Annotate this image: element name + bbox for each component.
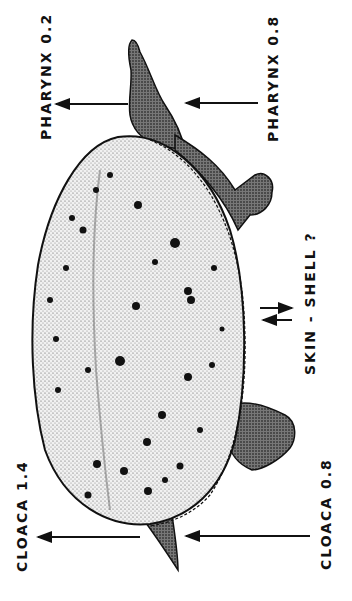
- label-cloaca-right: CLOACA 0.8: [318, 458, 334, 570]
- turtle-head: [129, 40, 185, 150]
- label-cloaca-left: CLOACA 1.4: [14, 460, 30, 572]
- label-skin-shell: SKIN - SHELL ?: [302, 231, 318, 375]
- label-pharynx-right: PHARYNX 0.8: [265, 15, 281, 142]
- turtle-shell: [32, 136, 244, 524]
- label-pharynx-left: PHARYNX 0.2: [38, 13, 54, 140]
